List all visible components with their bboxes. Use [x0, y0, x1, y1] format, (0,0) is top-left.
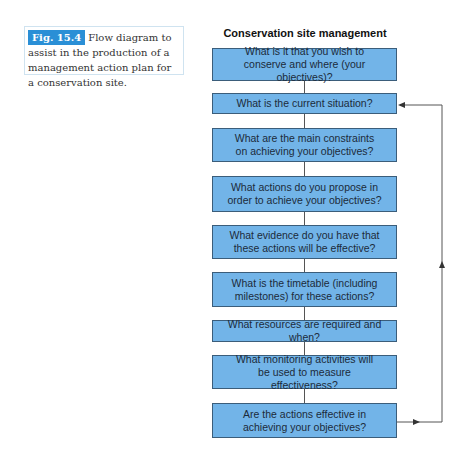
step-text: What is it that you wish to conserve and…: [230, 45, 380, 84]
arrowhead-right: [413, 419, 420, 425]
step-box-5: What evidence do you have that these act…: [212, 225, 397, 259]
step-box-8: What monitoring activities will be used …: [212, 355, 397, 389]
feedback-loop: [397, 105, 442, 422]
step-box-6: What is the timetable (including milesto…: [212, 272, 397, 307]
step-box-1: What is it that you wish to conserve and…: [212, 48, 397, 81]
arrowhead-left: [398, 102, 405, 108]
step-box-7: What resources are required and when?: [212, 320, 397, 342]
step-text: What is the timetable (including milesto…: [230, 277, 380, 303]
step-text: What evidence do you have that these act…: [230, 229, 380, 255]
step-text: What actions do you propose in order to …: [225, 181, 385, 207]
feedback-line: [397, 105, 442, 422]
step-text: What monitoring activities will be used …: [230, 353, 380, 392]
step-box-3: What are the main constraints on achievi…: [212, 128, 397, 162]
step-box-4: What actions do you propose in order to …: [212, 176, 397, 212]
step-text: Are the actions effective in achieving y…: [225, 408, 385, 434]
step-box-2: What is the current situation?: [212, 93, 397, 114]
step-text: What is the current situation?: [237, 97, 373, 110]
step-text: What are the main constraints on achievi…: [230, 132, 380, 158]
arrowhead-up: [439, 261, 445, 268]
step-box-9: Are the actions effective in achieving y…: [212, 403, 397, 438]
step-text: What resources are required and when?: [213, 318, 396, 344]
